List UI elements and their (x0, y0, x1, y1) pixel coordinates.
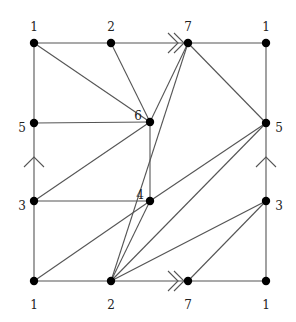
vertex-tr (262, 39, 270, 47)
vertex-label-r3: 3 (275, 199, 283, 213)
vertex-label-c4: 4 (136, 188, 144, 202)
edge-c4-b2 (111, 201, 150, 281)
vertex-label-c6: 6 (134, 109, 142, 123)
vertex-label-b7: 7 (184, 298, 192, 312)
vertex-label-l3: 3 (18, 199, 26, 213)
edge-b2-r3 (111, 201, 266, 281)
vertex-tl (30, 39, 38, 47)
vertex-c6 (146, 118, 154, 126)
diagram-canvas: 12715653431271 (0, 0, 296, 322)
triangulation-diagram: 12715653431271 (0, 0, 296, 322)
edge-b7-r3 (188, 201, 266, 281)
edge-t7-c6 (150, 43, 188, 122)
vertex-b2 (107, 277, 115, 285)
edge-l5-c6 (34, 122, 150, 123)
vertex-label-bl: 1 (30, 298, 38, 312)
edge-b2-r5 (111, 123, 266, 281)
edge-t7-b2 (111, 43, 188, 281)
vertex-label-br: 1 (262, 298, 270, 312)
vertex-label-tr: 1 (262, 20, 270, 34)
edge-l3-c6 (34, 122, 150, 201)
edge-tl-c6 (34, 43, 150, 122)
vertex-l3 (30, 197, 38, 205)
vertex-label-t7: 7 (184, 20, 192, 34)
vertex-bl (30, 277, 38, 285)
edges-group (34, 43, 266, 281)
vertex-l5 (30, 119, 38, 127)
vertex-c4 (146, 197, 154, 205)
vertex-t2 (107, 39, 115, 47)
vertex-br (262, 277, 270, 285)
vertex-label-l5: 5 (18, 121, 26, 135)
vertex-r5 (262, 119, 270, 127)
vertex-b7 (184, 277, 192, 285)
vertex-label-tl: 1 (30, 20, 38, 34)
edge-t7-r5 (188, 43, 266, 123)
edge-c4-r5 (150, 123, 266, 201)
vertex-t7 (184, 39, 192, 47)
vertex-label-t2: 2 (107, 20, 115, 34)
edge-t2-c6 (111, 43, 150, 122)
vertex-r3 (262, 197, 270, 205)
vertex-label-b2: 2 (107, 298, 115, 312)
vertex-label-r5: 5 (275, 121, 283, 135)
